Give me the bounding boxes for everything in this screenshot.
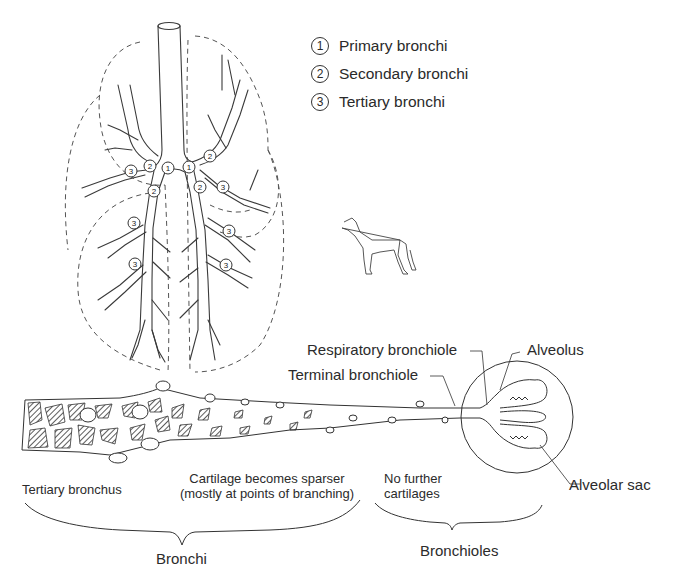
respiratory-bronchiole-label: Respiratory bronchiole (307, 341, 457, 358)
legend-item-tertiary: 3 Tertiary bronchi (311, 88, 468, 116)
svg-text:2: 2 (148, 162, 153, 171)
legend: 1 Primary bronchi 2 Secondary bronchi 3 … (311, 32, 468, 116)
caption-line: No further (384, 471, 442, 486)
number-1-marker: 1 (311, 37, 329, 55)
bronchial-tree (82, 23, 270, 363)
legend-item-secondary: 2 Secondary bronchi (311, 60, 468, 88)
bronchi-brace-label: Bronchi (156, 550, 207, 567)
svg-text:3: 3 (221, 183, 226, 192)
leader-lines (430, 351, 580, 484)
number-2-marker: 2 (311, 65, 329, 83)
svg-text:3: 3 (133, 260, 138, 269)
braces (25, 500, 542, 545)
alveolar-inset (460, 361, 573, 473)
tertiary-bronchus-caption: Tertiary bronchus (22, 482, 122, 497)
bronchioles-brace-label: Bronchioles (420, 542, 498, 559)
svg-text:2: 2 (198, 183, 203, 192)
caption-line: Cartilage becomes sparser (178, 471, 356, 486)
cartilage-sparser-caption: Cartilage becomes sparser (mostly at poi… (178, 471, 356, 501)
svg-text:3: 3 (132, 219, 137, 228)
svg-text:1: 1 (166, 164, 171, 173)
branch-markers: 1 1 2 2 2 2 3 3 3 3 3 3 (125, 150, 235, 271)
caption-line: cartilages (384, 486, 442, 501)
dog-icon (342, 218, 416, 274)
no-further-cartilages-caption: No further cartilages (384, 471, 442, 501)
svg-text:2: 2 (208, 152, 213, 161)
legend-label: Primary bronchi (339, 37, 448, 55)
number-3-marker: 3 (311, 93, 329, 111)
legend-label: Secondary bronchi (339, 65, 468, 83)
svg-text:3: 3 (224, 261, 229, 270)
terminal-bronchiole-label: Terminal bronchiole (288, 366, 418, 383)
lung-outlines (65, 36, 283, 372)
alveolar-sac-label: Alveolar sac (569, 476, 651, 493)
legend-label: Tertiary bronchi (339, 93, 445, 111)
svg-text:1: 1 (187, 163, 192, 172)
svg-text:3: 3 (129, 167, 134, 176)
bronchial-tree-figure: 1 1 2 2 2 2 3 3 3 3 3 3 (0, 0, 675, 576)
svg-text:2: 2 (152, 187, 157, 196)
alveolus-label: Alveolus (527, 341, 584, 358)
legend-item-primary: 1 Primary bronchi (311, 32, 468, 60)
caption-line: (mostly at points of branching) (178, 486, 356, 501)
svg-text:3: 3 (227, 227, 232, 236)
